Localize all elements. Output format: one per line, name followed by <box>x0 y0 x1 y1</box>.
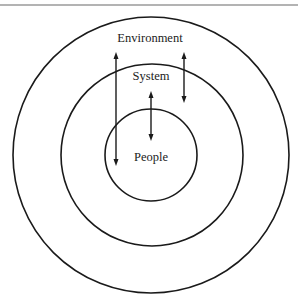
arrow-environment-people <box>114 52 119 166</box>
arrowhead-down-icon <box>114 159 119 166</box>
arrowhead-up-icon <box>114 52 119 59</box>
arrowhead-up-icon <box>149 91 154 98</box>
environment-label: Environment <box>117 31 183 45</box>
people-label: People <box>134 150 168 164</box>
arrow-environment-system <box>182 52 187 103</box>
arrowhead-up-icon <box>182 52 187 59</box>
concentric-circles-diagram: Environment System People <box>0 0 298 298</box>
arrow-system-people <box>149 91 154 141</box>
arrowhead-down-icon <box>149 134 154 141</box>
arrowhead-down-icon <box>182 96 187 103</box>
system-label: System <box>133 69 170 83</box>
